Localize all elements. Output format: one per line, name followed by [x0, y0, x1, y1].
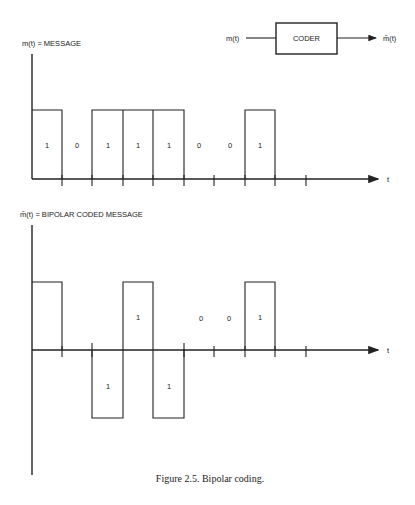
bipolar-coding-figure: m(t) CODER m̃(t) m(t) = MESSAGE t	[0, 0, 415, 505]
coder-output-label: m̃(t)	[383, 34, 397, 43]
coder-input-label: m(t)	[226, 34, 240, 43]
message-ylabel: m(t) = MESSAGE	[22, 39, 81, 48]
bit-label: 1	[106, 382, 110, 391]
coder-block-diagram: m(t) CODER m̃(t)	[226, 23, 397, 54]
bit-label: 1	[45, 141, 49, 150]
bit-label: 1	[167, 382, 171, 391]
positive-pulse	[32, 282, 62, 350]
bit-label: 1	[136, 313, 140, 322]
bit-label: 1	[258, 313, 262, 322]
bit-label: 1	[136, 141, 140, 150]
bit-label: 0	[75, 141, 79, 150]
bit-label: 0	[199, 314, 203, 323]
bit-label: 0	[227, 314, 231, 323]
bit-label: 1	[258, 141, 262, 150]
t-label: t	[387, 346, 390, 355]
message-plot: m(t) = MESSAGE t 1 0 1 1 1 0 0 1	[22, 39, 390, 186]
bipolar-ylabel: m̃(t) = BIPOLAR CODED MESSAGE	[20, 210, 143, 219]
bit-label: 0	[197, 141, 201, 150]
bit-label: 1	[106, 141, 110, 150]
figure-caption: Figure 2.5. Bipolar coding.	[156, 473, 264, 484]
bit-label: 1	[167, 141, 171, 150]
bit-label: 0	[228, 141, 232, 150]
bipolar-plot: m̃(t) = BIPOLAR CODED MESSAGE t 1 1 1 0 …	[20, 210, 390, 475]
t-label: t	[387, 175, 390, 184]
coder-box-label: CODER	[293, 34, 321, 43]
